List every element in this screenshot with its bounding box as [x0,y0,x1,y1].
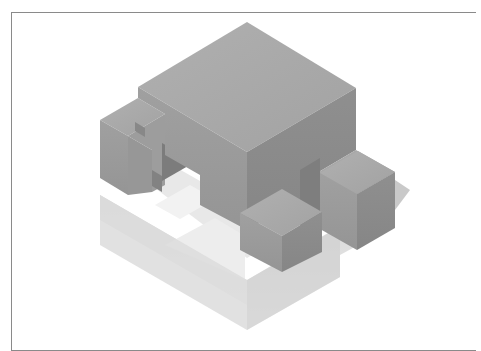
isometric-blocks-illustration [0,0,481,351]
